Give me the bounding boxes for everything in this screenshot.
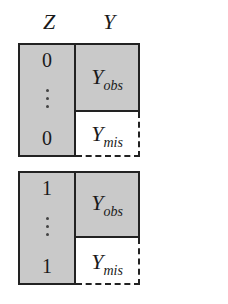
y-missing-cell: Ymis [76, 238, 140, 285]
z-value-top: 0 [20, 49, 74, 71]
y-obs-label: Yobs [76, 65, 138, 98]
y-observed-cell: Yobs [76, 43, 140, 112]
block-z1: 1 1 Yobs Ymis [18, 171, 140, 285]
ellipsis-vertical-icon [45, 217, 49, 236]
block-z0: 0 0 Yobs Ymis [18, 43, 140, 157]
z-value-top: 1 [20, 177, 74, 199]
y-missing-cell: Ymis [76, 112, 140, 157]
y-mis-label: Ymis [76, 122, 138, 155]
header-z: Z [19, 10, 79, 34]
header-y: Y [79, 10, 139, 34]
z-value-bottom: 1 [20, 255, 74, 277]
z-value-bottom: 0 [20, 127, 74, 149]
y-obs-label: Yobs [76, 191, 138, 224]
z-column: 0 0 [18, 43, 76, 157]
ellipsis-vertical-icon [45, 89, 49, 108]
z-column: 1 1 [18, 171, 76, 285]
y-observed-cell: Yobs [76, 171, 140, 238]
y-mis-label: Ymis [76, 250, 138, 283]
